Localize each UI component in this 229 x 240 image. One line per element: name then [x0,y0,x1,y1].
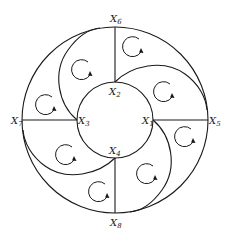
circulation-arrow-icon [72,60,93,80]
label-x4: X4 [108,145,121,158]
label-x8: X8 [109,217,122,230]
label-x1: X1 [141,115,154,128]
label-x5: X5 [208,115,221,128]
label-x7: X7 [10,115,23,128]
circulation-arrow-icon [154,82,175,102]
circulation-arrow-icon [123,37,144,57]
spiral-arc-x4 [23,130,115,175]
label-x3: X3 [77,115,90,128]
annulus-diagram: X6 X2 X7 X3 X1 X5 X4 X8 [0,0,229,240]
circulation-arrow-icon [89,182,110,202]
spiral-arc-x2 [115,65,207,110]
circulation-arrow-icon [175,127,196,147]
label-x2: X2 [108,86,121,99]
circulation-arrow-icon [36,95,57,115]
label-x6: X6 [109,13,122,26]
circulation-arrow-icon [56,145,77,165]
circulation-arrow-icon [137,164,158,184]
